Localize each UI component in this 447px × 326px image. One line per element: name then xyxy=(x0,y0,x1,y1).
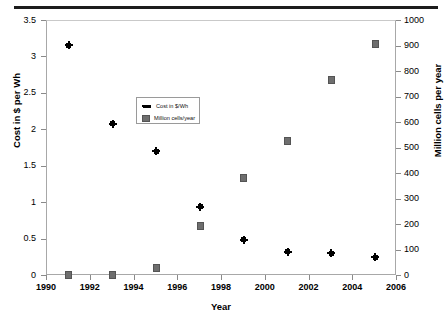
y-axis-left-tick-label: 3 xyxy=(0,52,36,61)
data-point-cells xyxy=(284,137,291,145)
plot-area xyxy=(46,20,396,275)
data-point-cells xyxy=(328,76,335,84)
y-axis-right-title: Million cells per year xyxy=(432,41,443,181)
y-axis-left-tick-label: 2.5 xyxy=(0,88,36,97)
x-axis-tick xyxy=(46,275,47,280)
y-axis-left-tick-label: 2 xyxy=(0,125,36,134)
x-axis-tick xyxy=(265,275,266,280)
x-axis-tick-label: 1992 xyxy=(70,283,110,292)
x-axis-tick-label: 2004 xyxy=(332,283,372,292)
legend-item-cells: Million cells/year xyxy=(141,113,196,123)
y-axis-left-tick-label: 0 xyxy=(0,271,36,280)
data-point-cells xyxy=(109,271,116,279)
x-axis-tick xyxy=(221,275,222,280)
diamond-marker-icon xyxy=(143,105,151,108)
x-axis-tick xyxy=(134,275,135,280)
y-axis-left-tick-label: 1 xyxy=(0,198,36,207)
y-axis-right-tick xyxy=(396,71,401,72)
y-axis-right-tick-label: 100 xyxy=(404,245,438,254)
x-axis-tick xyxy=(90,275,91,280)
data-point-layer xyxy=(47,21,395,274)
data-point-cost xyxy=(154,149,159,154)
y-axis-left-tick-label: 1.5 xyxy=(0,161,36,170)
y-axis-right-tick-label: 600 xyxy=(404,118,438,127)
y-axis-right-tick xyxy=(396,97,401,98)
y-axis-right-tick-label: 900 xyxy=(404,41,438,50)
data-point-cost xyxy=(285,249,290,254)
chart-legend: Cost in $/Wh Million cells/year xyxy=(136,97,200,124)
x-axis-tick-label: 1990 xyxy=(26,283,66,292)
y-axis-right-tick xyxy=(396,199,401,200)
data-point-cells xyxy=(153,264,160,272)
data-point-cells xyxy=(197,222,204,230)
data-point-cost xyxy=(198,204,203,209)
y-axis-left-tick-label: 3.5 xyxy=(0,16,36,25)
y-axis-right-tick-label: 400 xyxy=(404,169,438,178)
y-axis-right-tick xyxy=(396,46,401,47)
x-axis-tick-label: 1996 xyxy=(157,283,197,292)
x-axis-tick xyxy=(352,275,353,280)
y-axis-right-tick xyxy=(396,224,401,225)
x-axis-tick xyxy=(177,275,178,280)
x-axis-tick xyxy=(396,275,397,280)
data-point-cost xyxy=(66,43,71,48)
y-axis-right-tick xyxy=(396,250,401,251)
data-point-cost xyxy=(241,237,246,242)
y-axis-left-title: Cost in $ per Wh xyxy=(11,46,22,176)
y-axis-right-tick-label: 300 xyxy=(404,194,438,203)
y-axis-right-tick-label: 800 xyxy=(404,67,438,76)
y-axis-right-tick-label: 0 xyxy=(404,271,438,280)
y-axis-right-tick xyxy=(396,173,401,174)
data-point-cost xyxy=(329,251,334,256)
y-axis-right-tick xyxy=(396,20,401,21)
x-axis-tick-label: 2006 xyxy=(376,283,416,292)
y-axis-right-tick-label: 200 xyxy=(404,220,438,229)
x-axis-tick-label: 2000 xyxy=(245,283,285,292)
x-axis-tick xyxy=(309,275,310,280)
data-point-cells xyxy=(65,271,72,279)
data-point-cost xyxy=(110,121,115,126)
y-axis-left-tick-label: 0.5 xyxy=(0,234,36,243)
y-axis-right-tick xyxy=(396,148,401,149)
legend-label-cost: Cost in $/Wh xyxy=(156,103,188,110)
legend-item-cost: Cost in $/Wh xyxy=(141,101,196,111)
x-axis-title: Year xyxy=(46,301,396,312)
y-axis-right-tick xyxy=(396,122,401,123)
y-axis-right-tick-label: 1000 xyxy=(404,16,438,25)
data-point-cells xyxy=(372,40,379,48)
y-axis-right-tick-label: 700 xyxy=(404,92,438,101)
scatter-chart-figure: Cost in $ per Wh Million cells per year … xyxy=(0,0,447,326)
data-point-cost xyxy=(373,255,378,260)
x-axis-tick-label: 1998 xyxy=(201,283,241,292)
legend-label-cells: Million cells/year xyxy=(154,115,195,122)
data-point-cells xyxy=(240,174,247,182)
x-axis-tick-label: 1994 xyxy=(114,283,154,292)
x-axis-tick-label: 2002 xyxy=(289,283,329,292)
square-marker-icon xyxy=(142,115,150,122)
y-axis-right-tick-label: 500 xyxy=(404,143,438,152)
